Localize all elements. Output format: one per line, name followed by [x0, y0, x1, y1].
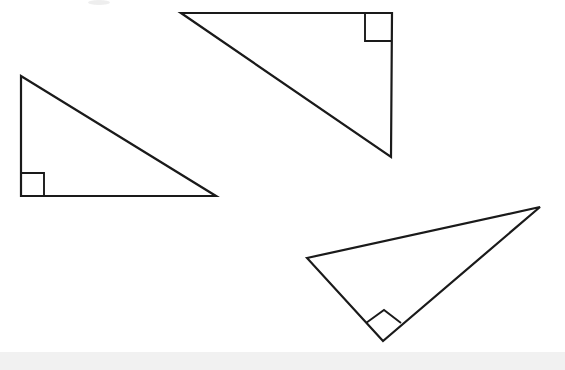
top-right-triangle-group[interactable] — [181, 13, 392, 157]
bottom-gray-band — [0, 352, 565, 370]
triangles-svg — [0, 0, 565, 370]
bottom-right-triangle[interactable] — [307, 207, 540, 341]
bottom-right-triangle-group[interactable] — [307, 207, 540, 341]
left-right-triangle[interactable] — [21, 76, 216, 196]
figure-canvas — [0, 0, 565, 370]
left-right-triangle-group[interactable] — [21, 76, 216, 196]
top-right-triangle[interactable] — [181, 13, 392, 157]
